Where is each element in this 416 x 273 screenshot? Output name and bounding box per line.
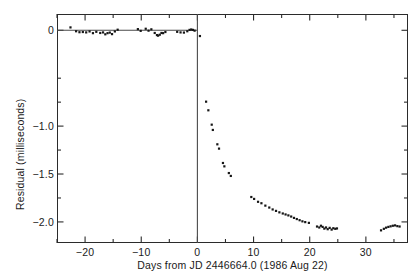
x-tick-label: −20: [76, 246, 94, 258]
timing-residual-figure: −20−100102030 0−1.0−1.5−2.0 Days from JD…: [0, 0, 416, 273]
x-tick-label: 10: [248, 246, 260, 258]
x-tick-label: −10: [132, 246, 150, 258]
x-tick-label: 0: [194, 246, 200, 258]
plot-frame: [57, 14, 408, 243]
y-tick-label: −2.0: [32, 216, 54, 228]
x-axis-title: Days from JD 2446664.0 (1986 Aug 22): [57, 259, 408, 271]
x-tick-label: 20: [304, 246, 316, 258]
y-tick-label: −1.5: [32, 168, 54, 180]
y-axis-title: Residual (milliseconds): [14, 99, 26, 210]
x-tick-label: 30: [360, 246, 372, 258]
y-tick-label: −1.0: [32, 120, 54, 132]
y-tick-label: 0: [48, 24, 54, 36]
